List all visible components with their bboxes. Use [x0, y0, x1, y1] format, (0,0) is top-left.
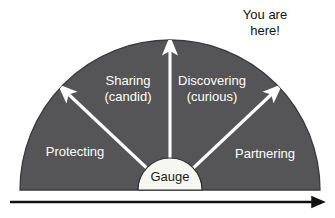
callout-line-2: here! [250, 23, 280, 38]
diagram-canvas: Gauge Protecting Sharing (candid) Discov… [0, 0, 335, 218]
zone-label-partnering: Partnering [235, 146, 295, 161]
zone-sublabel-sharing: (candid) [105, 89, 152, 104]
zone-label-protecting: Protecting [46, 144, 105, 159]
gauge-label: Gauge [150, 169, 189, 184]
callout-line-1: You are [243, 7, 287, 22]
zone-label-sharing: Sharing [106, 73, 151, 88]
gauge-spectrum-diagram: Gauge Protecting Sharing (candid) Discov… [0, 0, 335, 218]
zone-label-discovering: Discovering [178, 73, 246, 88]
zone-sublabel-discovering: (curious) [187, 89, 238, 104]
